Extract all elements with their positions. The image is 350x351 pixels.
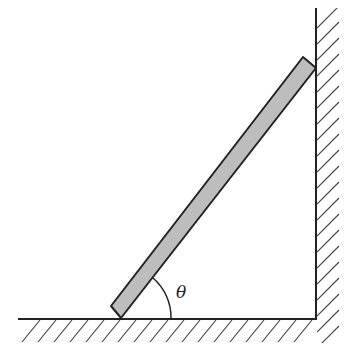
ladder (111, 57, 316, 318)
angle-arc (153, 278, 171, 319)
diagram-canvas: θ (0, 0, 350, 351)
floor-hatching (22, 320, 312, 342)
angle-label: θ (176, 282, 186, 302)
ladder-diagram: θ (0, 0, 350, 351)
wall-hatching (317, 6, 339, 348)
